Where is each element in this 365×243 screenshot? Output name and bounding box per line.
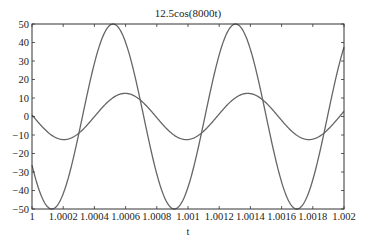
x-axis-label: t <box>187 226 190 237</box>
x-tick-label: 1.0008 <box>142 211 171 222</box>
y-tick-label: 50 <box>19 19 30 30</box>
y-tick-label: −10 <box>13 130 29 141</box>
y-tick-label: 20 <box>19 74 30 85</box>
chart: 12.5cos(8000t) 11.00021.00041.00061.0008… <box>0 0 365 243</box>
y-tick-label: 30 <box>19 56 30 67</box>
y-tick-label: 10 <box>19 93 30 104</box>
x-tick-label: 1.0002 <box>49 211 78 222</box>
chart-title: 12.5cos(8000t) <box>155 7 222 20</box>
y-axis: 50403020100−10−20−30−40−50 <box>13 19 344 215</box>
x-tick-label: 1.0018 <box>298 211 327 222</box>
y-tick-label: 40 <box>19 37 30 48</box>
plot-frame <box>32 24 344 209</box>
x-tick-label: 1.0004 <box>80 211 110 222</box>
y-tick-label: 0 <box>24 111 29 122</box>
y-tick-label: −20 <box>13 148 29 159</box>
y-tick-label: −40 <box>13 185 29 196</box>
series-line-1 <box>32 24 344 209</box>
x-tick-label: 1.002 <box>332 211 356 222</box>
x-tick-label: 1 <box>29 211 34 222</box>
x-tick-label: 1.0012 <box>205 211 234 222</box>
plot-area <box>32 24 344 209</box>
x-tick-label: 1.0014 <box>236 211 266 222</box>
y-tick-label: −50 <box>13 204 29 215</box>
x-axis: 11.00021.00041.00061.00081.0011.00121.00… <box>29 24 355 222</box>
x-tick-label: 1.0006 <box>111 211 140 222</box>
x-tick-label: 1.0016 <box>267 211 296 222</box>
y-tick-label: −30 <box>13 167 29 178</box>
x-tick-label: 1.001 <box>176 211 200 222</box>
